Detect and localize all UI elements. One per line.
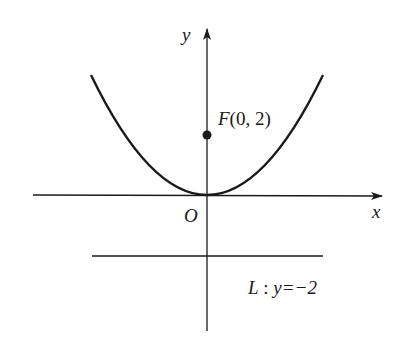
origin-label: O <box>184 205 198 226</box>
y-axis-label: y <box>180 24 191 45</box>
directrix-equation: y=−2 <box>271 277 317 298</box>
focus-label: F(0, 2) <box>217 108 271 130</box>
focus-point <box>203 131 212 140</box>
directrix-name: L <box>247 277 259 298</box>
x-axis-label: x <box>371 201 381 222</box>
parabola-diagram: y x O F(0, 2) L : y=−2 <box>0 0 408 341</box>
focus-coords: (0, 2) <box>230 108 271 130</box>
directrix-label: L : y=−2 <box>247 277 317 298</box>
directrix-separator: : <box>259 277 274 298</box>
focus-name: F <box>217 108 230 129</box>
